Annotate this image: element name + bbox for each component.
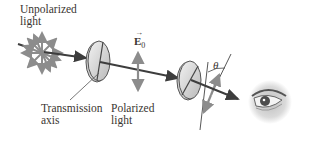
e0-subscript: 0 — [141, 41, 145, 50]
unpolarized-light-label: Unpolarized light — [20, 3, 77, 27]
theta-label: θ — [213, 59, 218, 71]
transmission-axis-label: Transmission axis — [41, 102, 103, 126]
first-polarizer — [86, 41, 110, 82]
transmission-axis-leader — [70, 73, 99, 100]
vector-arrow-icon: → — [135, 28, 143, 37]
observer-eye-icon — [248, 80, 292, 124]
second-polarizer — [177, 61, 201, 100]
e0-label: →E0 — [134, 35, 145, 50]
polarized-light-label: Polarized light — [111, 102, 154, 126]
